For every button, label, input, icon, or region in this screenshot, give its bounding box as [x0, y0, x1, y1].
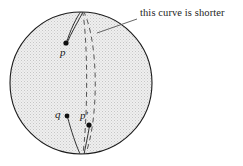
annotation-caption: this curve is shorter	[140, 8, 225, 19]
figure-root: p q p' this curve is shorter	[0, 0, 243, 166]
point-label-q: q	[55, 109, 61, 120]
point-dot-p-prime	[86, 122, 91, 127]
sphere-geodesic-figure	[0, 0, 243, 166]
point-dot-q	[65, 114, 70, 119]
point-label-p: p	[60, 47, 66, 58]
point-dot-p	[63, 40, 68, 45]
sphere-body	[10, 12, 152, 154]
point-label-p-prime: p'	[80, 110, 88, 121]
